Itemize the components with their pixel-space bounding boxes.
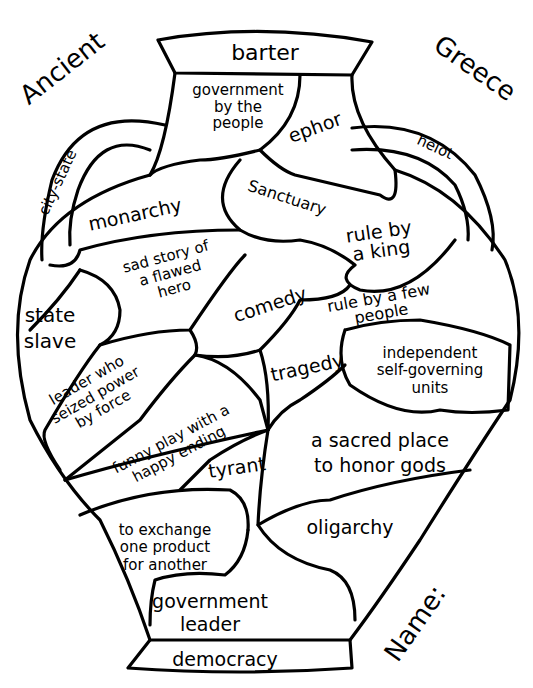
region-government-by-people: government by the people bbox=[178, 82, 298, 132]
rim-label: barter bbox=[205, 42, 325, 64]
region-state-slave: state slave bbox=[10, 302, 90, 354]
region-oligarchy: oligarchy bbox=[290, 518, 410, 537]
region-sacred-place: a sacred place to honor gods bbox=[270, 428, 490, 477]
region-independent-units: independent self-governing units bbox=[350, 345, 510, 397]
region-exchange: to exchange one product for another bbox=[85, 522, 245, 574]
base-label: democracy bbox=[150, 650, 300, 669]
region-government-leader: government leader bbox=[145, 590, 275, 636]
